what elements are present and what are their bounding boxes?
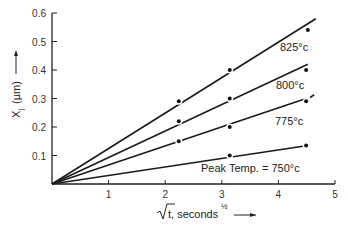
svg-text:(µm): (µm) [10,81,22,104]
x-tick-label: 5 [332,189,338,200]
data-point [228,68,232,72]
data-point [177,119,181,123]
data-point [228,97,232,101]
y-tick-label: 0.1 [32,151,46,162]
y-tick-label: 0.6 [32,8,46,19]
label-825: 825°c [280,41,309,53]
x-tick-label: 4 [276,189,282,200]
y-tick-label: 0.2 [32,122,46,133]
label-775: 775°c [275,115,304,127]
x-axis-label: t, seconds ½ [157,202,256,220]
y-tick-label: 0.5 [32,37,46,48]
x-tick-label: 1 [106,189,112,200]
y-tick-label: 0.4 [32,65,46,76]
label-750: Peak Temp. = 750°c [201,162,300,174]
series-line [52,19,316,184]
data-point [306,28,310,32]
label-800: 800°c [276,79,305,91]
data-point [177,139,181,143]
data-point [177,99,181,103]
data-point [304,144,308,148]
y-tick-label: 0.3 [32,94,46,105]
svg-text:X: X [10,110,22,118]
chart: 123450.10.20.30.40.50.6 825°c 800°c 775°… [0,0,348,230]
data-point [304,68,308,72]
svg-text:t, seconds: t, seconds [168,208,219,220]
y-axis-label: X j (µm) [10,50,25,118]
series [52,19,317,184]
svg-text:½: ½ [221,202,228,211]
data-point [228,125,232,129]
data-point [228,154,232,158]
x-tick-label: 3 [219,189,225,200]
svg-text:j: j [17,108,25,111]
data-point [304,99,308,103]
x-tick-label: 2 [162,189,168,200]
